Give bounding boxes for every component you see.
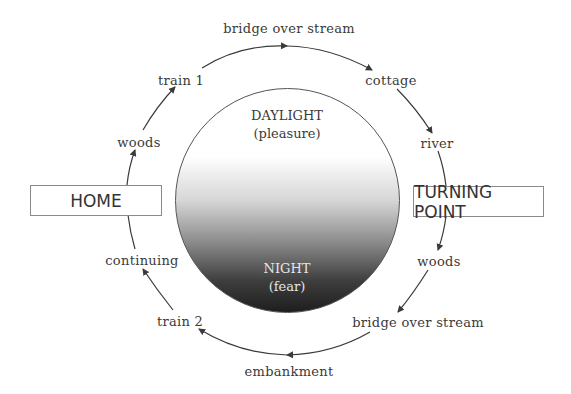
journey-cycle-diagram: DAYLIGHT (pleasure) NIGHT (fear) HOME TU… <box>0 0 571 394</box>
return-train2-label: train 2 <box>157 315 203 328</box>
return-bridge-label: bridge over stream <box>352 316 484 329</box>
night-label: NIGHT <box>264 260 311 278</box>
outbound-train1-label: train 1 <box>158 74 204 87</box>
return-continuing-label: continuing <box>105 254 178 267</box>
arrow-continuing-to-home <box>128 215 135 249</box>
arrow-train2-to-continuing <box>143 269 173 310</box>
arrow-home-to-woods <box>127 150 135 185</box>
home-box: HOME <box>30 185 162 216</box>
turning-point-box: TURNING POINT <box>413 186 544 217</box>
home-label: HOME <box>70 191 122 211</box>
arrow-train1-to-bridge <box>202 46 287 68</box>
turning-point-label: TURNING POINT <box>414 182 543 222</box>
outbound-cottage-label: cottage <box>365 74 416 87</box>
daylight-label-group: DAYLIGHT (pleasure) <box>251 107 323 142</box>
arrow-cottage-to-river <box>397 89 432 133</box>
pleasure-label: (pleasure) <box>251 125 323 143</box>
return-embankment-label: embankment <box>245 365 334 378</box>
night-label-group: NIGHT (fear) <box>264 260 311 295</box>
daylight-label: DAYLIGHT <box>251 107 323 125</box>
arrow-woods-to-train1 <box>143 87 175 130</box>
outbound-woods-label: woods <box>117 136 160 149</box>
outbound-bridge-label: bridge over stream <box>223 22 355 35</box>
arrow-woods-to-bridge <box>398 270 428 312</box>
fear-label: (fear) <box>264 278 311 296</box>
outbound-river-label: river <box>420 137 453 150</box>
arrow-bridge-to-embankment <box>287 332 370 355</box>
return-woods-label: woods <box>417 255 460 268</box>
